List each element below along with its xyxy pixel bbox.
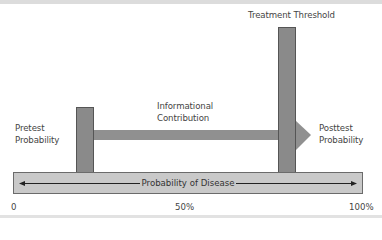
informational-line2: Contribution xyxy=(157,113,213,125)
band-label-wrap: Probability of Disease xyxy=(14,177,362,189)
informational-line1: Informational xyxy=(157,101,213,113)
tick-100: 100% xyxy=(349,201,374,213)
tick-50: 50% xyxy=(175,201,194,213)
arrow-shaft xyxy=(93,130,283,140)
posttest-probability-label: Posttest Probability xyxy=(319,123,363,146)
treatment-threshold-bar xyxy=(278,27,296,173)
pretest-probability-label: Pretest Probability xyxy=(15,123,59,146)
pretest-line1: Pretest xyxy=(15,123,59,135)
bottom-border xyxy=(0,215,382,218)
probability-of-disease-band: Probability of Disease xyxy=(13,172,363,194)
arrow-head-icon xyxy=(295,120,311,151)
posttest-line1: Posttest xyxy=(319,123,363,135)
informational-contribution-label: Informational Contribution xyxy=(157,101,213,124)
pretest-probability-bar xyxy=(76,107,94,173)
pretest-line2: Probability xyxy=(15,135,59,147)
posttest-line2: Probability xyxy=(319,135,363,147)
probability-of-disease-label: Probability of Disease xyxy=(140,178,237,188)
tick-0: 0 xyxy=(11,201,16,213)
